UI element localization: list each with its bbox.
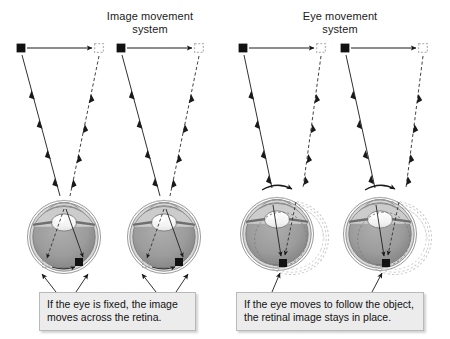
rotation-arrow xyxy=(365,185,395,190)
object-start-marker xyxy=(341,44,350,53)
subfigure-b xyxy=(117,44,204,292)
panel-eye-movement xyxy=(239,44,443,292)
object-end-marker xyxy=(317,44,326,53)
object-end-marker xyxy=(419,44,428,53)
caption-pointer-right xyxy=(176,274,188,292)
figure-canvas: Image movement system Eye movement syste… xyxy=(0,0,450,339)
eyeball xyxy=(128,200,201,274)
object-start-marker xyxy=(17,44,26,53)
light-ray-dashed xyxy=(303,56,321,188)
eyeball xyxy=(241,197,314,271)
subfigure-a xyxy=(17,44,104,292)
panel-title-eye-movement: Eye movement system xyxy=(245,10,435,36)
ray-arrowheads-dashed xyxy=(303,94,320,185)
retinal-image-solid xyxy=(175,258,183,266)
eyeball xyxy=(28,200,101,274)
panel-title-image-movement: Image movement system xyxy=(55,10,245,36)
retinal-image-solid xyxy=(75,258,83,266)
caption-pointer-left xyxy=(42,274,56,292)
rotation-arrow xyxy=(262,185,292,190)
caption-pointer-right xyxy=(76,274,88,292)
caption-image-movement: If the eye is fixed, the image moves acr… xyxy=(39,292,196,331)
caption-pointer xyxy=(272,273,280,292)
panel-image-movement xyxy=(17,44,204,292)
object-end-marker xyxy=(95,44,104,53)
caption-pointer-left xyxy=(142,274,156,292)
object-start-marker xyxy=(117,44,126,53)
diagram-svg xyxy=(0,0,450,339)
subfigure-d xyxy=(341,44,443,292)
caption-pointer xyxy=(372,273,382,292)
retinal-image-solid xyxy=(382,259,390,267)
object-start-marker xyxy=(239,44,248,53)
light-ray-solid xyxy=(346,55,375,188)
ray-arrowheads-dashed xyxy=(406,94,422,185)
eyeball xyxy=(344,197,417,271)
caption-eye-movement: If the eye moves to follow the object, t… xyxy=(236,292,424,331)
light-ray-dashed xyxy=(406,56,423,188)
retinal-image-solid xyxy=(279,259,287,267)
ray-arrowheads-solid xyxy=(350,91,374,185)
object-end-marker xyxy=(195,44,204,53)
subfigure-c xyxy=(239,44,340,292)
